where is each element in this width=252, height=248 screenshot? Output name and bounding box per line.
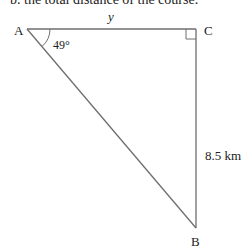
triangle-diagram (0, 0, 252, 248)
side-ab-hypotenuse (27, 29, 196, 228)
angle-arc-a (42, 29, 50, 47)
vertex-c-label: C (204, 24, 213, 37)
side-ac-label: y (108, 10, 114, 23)
angle-a-label: 49° (53, 39, 70, 51)
side-cb-label: 8.5 km (205, 149, 241, 162)
vertex-b-label: B (191, 235, 200, 248)
right-angle-marker (186, 29, 196, 39)
vertex-a-label: A (14, 24, 23, 37)
